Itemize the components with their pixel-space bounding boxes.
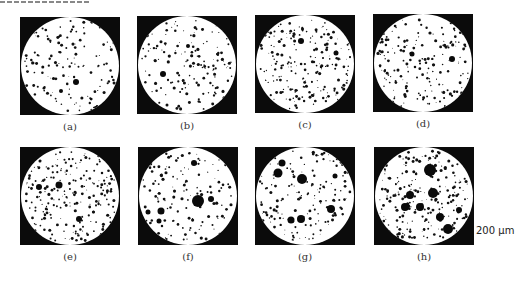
sample-disc	[138, 16, 236, 114]
micrograph-panel-e	[20, 147, 120, 245]
micrograph-panel-f	[138, 147, 238, 245]
scale-bar-label: 200 μm	[476, 225, 514, 236]
sample-disc	[374, 14, 472, 112]
micrograph-panel-h	[374, 147, 474, 245]
sample-disc	[256, 147, 354, 245]
sample-disc	[256, 15, 354, 113]
panel-label-d: (d)	[403, 118, 443, 129]
sample-disc	[375, 147, 473, 245]
panel-label-g: (g)	[285, 251, 325, 262]
sample-disc	[21, 147, 119, 245]
sample-disc	[139, 147, 237, 245]
micrograph-panel-c	[255, 15, 355, 113]
micrograph-panel-g	[255, 147, 355, 245]
micrograph-panel-b	[137, 16, 237, 114]
panel-label-b: (b)	[167, 120, 207, 131]
panel-label-e: (e)	[50, 251, 90, 262]
panel-label-h: (h)	[404, 251, 444, 262]
panel-label-a: (a)	[50, 121, 90, 132]
panel-label-c: (c)	[285, 119, 325, 130]
micrograph-panel-a	[20, 17, 120, 115]
panel-label-f: (f)	[168, 251, 208, 262]
caption-fragment	[0, 0, 90, 5]
sample-disc	[21, 17, 119, 115]
micrograph-panel-d	[373, 14, 473, 112]
